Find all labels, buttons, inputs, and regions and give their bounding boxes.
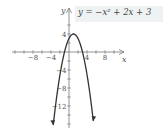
- curve-arrowheads: [50, 116, 96, 125]
- x-tick-label: −8: [28, 54, 38, 62]
- x-axis-label: x: [122, 55, 127, 64]
- x-tick-label: 4: [85, 54, 90, 62]
- y-axis-label: y: [60, 6, 66, 15]
- parabola-curve: [53, 34, 93, 125]
- x-tick-label: 8: [103, 54, 107, 62]
- axes: [12, 8, 124, 128]
- parabola-chart: −8−4484−4−8−12 x y: [0, 0, 168, 134]
- y-tick-label: 4: [62, 31, 67, 39]
- x-tick-label: −4: [46, 54, 57, 62]
- y-tick-label: −12: [52, 103, 67, 111]
- curve-arrow-icon: [92, 116, 97, 121]
